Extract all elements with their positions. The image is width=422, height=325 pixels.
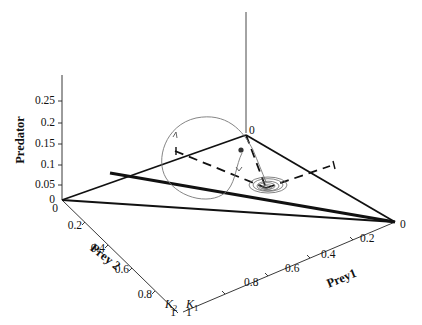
- svg-text:0.8: 0.8: [244, 276, 259, 288]
- svg-text:0: 0: [52, 202, 58, 214]
- prey1-ticks: 0 0.2 0.4 0.6 0.8 1: [186, 218, 406, 318]
- svg-text:0.05: 0.05: [35, 178, 55, 190]
- svg-text:0.1: 0.1: [41, 158, 56, 170]
- isocline-tick: [333, 161, 335, 169]
- svg-text:0.2: 0.2: [360, 232, 375, 244]
- svg-text:0.2: 0.2: [41, 116, 56, 128]
- svg-text:0.15: 0.15: [35, 137, 55, 149]
- equilibrium-spiral: [249, 177, 287, 193]
- svg-text:0.4: 0.4: [321, 248, 336, 260]
- plot-canvas: 0.25 0.2 0.15 0.1 0.05 0 Predator 0 0.2 …: [0, 0, 422, 325]
- predator-axis-label: Predator: [13, 116, 27, 164]
- svg-text:0.6: 0.6: [285, 262, 300, 274]
- initial-point: [238, 147, 243, 152]
- chart-3d: 0.25 0.2 0.15 0.1 0.05 0 Predator 0 0.2 …: [0, 0, 422, 325]
- triangle-boundary: [62, 135, 395, 222]
- k2-label: K2: [164, 297, 177, 313]
- svg-text:0.2: 0.2: [68, 219, 83, 231]
- svg-text:0: 0: [400, 218, 406, 230]
- prey1-axis-label: Prey1: [325, 266, 359, 291]
- predator-axis: [58, 75, 62, 200]
- apex-label: 0: [249, 124, 255, 136]
- prey2-axis: [62, 200, 178, 313]
- prey2-axis-label: Prey 2: [88, 241, 124, 273]
- svg-text:0.8: 0.8: [138, 288, 153, 300]
- svg-text:0.25: 0.25: [35, 94, 55, 106]
- k1-label: K1: [185, 297, 198, 313]
- predator-ticks: 0.25 0.2 0.15 0.1 0.05 0: [35, 94, 55, 205]
